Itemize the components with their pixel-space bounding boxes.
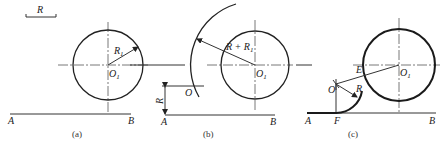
construction-diagram: R R1 O1 A B (a) R + R1 O1 O R A B (b) <box>0 0 446 146</box>
caption-a: (a) <box>72 129 82 139</box>
center-label: O1 <box>109 68 120 81</box>
scale-label: R <box>36 4 43 15</box>
point-f-label: F <box>333 115 341 126</box>
point-b-label: B <box>429 115 435 126</box>
panel-b: R + R1 O1 O R A B (b) <box>130 4 293 139</box>
point-a-label: A <box>160 116 168 127</box>
point-b-label: B <box>128 115 134 126</box>
point-a-label: A <box>7 115 15 126</box>
offset-label: R <box>154 98 165 105</box>
caption-c: (c) <box>348 129 358 139</box>
point-b-label: B <box>270 116 276 127</box>
point-e-label: E <box>355 64 362 75</box>
center-label: O1 <box>256 68 267 81</box>
point-o-label: O <box>185 87 192 98</box>
caption-b: (b) <box>203 129 214 139</box>
point-o-label: O <box>328 84 335 95</box>
radius-label: R1 <box>113 45 124 58</box>
point-a-label: A <box>304 115 312 126</box>
radius-sum-label: R + R1 <box>225 41 253 54</box>
panel-c: E O1 O R A F B (c) <box>296 18 440 139</box>
radius-arrow <box>336 84 357 97</box>
panel-a: R R1 O1 A B (a) <box>7 4 148 139</box>
center-label: O1 <box>400 67 411 80</box>
